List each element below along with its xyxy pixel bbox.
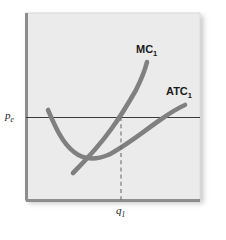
atc-symbol: ATC <box>166 85 188 97</box>
plot-panel-face <box>27 14 199 199</box>
atc-subscript: 1 <box>188 91 192 100</box>
price-axis-label: pe <box>5 110 14 124</box>
price-subscript: e <box>11 115 14 124</box>
atc-curve-label: ATC1 <box>166 86 192 100</box>
quantity-axis-label: q1 <box>116 205 125 219</box>
cost-curve-figure: pe q1 MC1 ATC1 <box>0 0 226 240</box>
chart-canvas <box>0 0 226 240</box>
mc-curve-label: MC1 <box>136 44 157 58</box>
quantity-subscript: 1 <box>122 210 126 219</box>
mc-subscript: 1 <box>153 49 157 58</box>
mc-symbol: MC <box>136 43 153 55</box>
